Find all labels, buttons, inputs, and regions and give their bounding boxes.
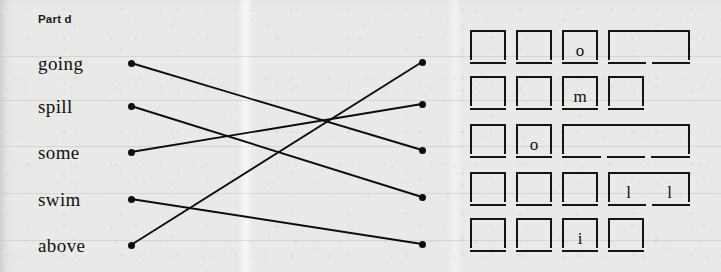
cell-baseline-1: [516, 250, 552, 252]
cell-bracket: [562, 124, 690, 154]
connector-going-to-slot3[interactable]: [131, 63, 422, 150]
cell-baseline-1: [516, 108, 552, 110]
answer-cell-r4c4[interactable]: ll: [608, 172, 690, 206]
right-dot-5[interactable]: [419, 241, 426, 248]
cell-baseline-1: [470, 250, 506, 252]
answer-cell-r5c1[interactable]: [470, 218, 506, 252]
answer-cell-r4c1[interactable]: [470, 172, 506, 206]
right-dot-1[interactable]: [419, 59, 426, 66]
cell-bracket: [516, 218, 552, 248]
answer-box-grid: omolli: [470, 30, 700, 266]
connector-spill-to-slot4[interactable]: [131, 106, 422, 197]
cell-letter: o: [562, 42, 598, 59]
answer-cell-r3c2[interactable]: o: [516, 124, 552, 158]
answer-cell-r2c1[interactable]: [470, 76, 506, 110]
cell-baseline-1: [470, 108, 506, 110]
answer-cell-r1c1[interactable]: [470, 30, 506, 64]
left-dot-4[interactable]: [128, 196, 135, 203]
cell-bracket: [470, 124, 506, 154]
answer-cell-r1c2[interactable]: [516, 30, 552, 64]
answer-row-5: i: [470, 218, 700, 258]
cell-baseline-1: [608, 250, 644, 252]
cell-baseline-1: [562, 156, 601, 158]
cell-baseline-1: [516, 156, 552, 158]
answer-cell-r5c3[interactable]: i: [562, 218, 598, 252]
left-dot-5[interactable]: [128, 242, 135, 249]
cell-baseline-1: [516, 204, 552, 206]
right-dot-3[interactable]: [419, 147, 426, 154]
cell-baseline-1: [608, 108, 644, 110]
cell-baseline-2: [652, 62, 690, 64]
left-dot-2[interactable]: [128, 103, 135, 110]
right-dot-2[interactable]: [419, 101, 426, 108]
cell-bracket: [608, 76, 644, 106]
cell-letter: i: [562, 230, 598, 247]
connector-swim-to-slot5[interactable]: [131, 199, 422, 244]
right-dot-4[interactable]: [419, 194, 426, 201]
answer-row-3: o: [470, 124, 700, 164]
cell-bracket: [516, 30, 552, 60]
left-dot-1[interactable]: [128, 60, 135, 67]
connector-some-to-slot2[interactable]: [131, 104, 422, 152]
answer-cell-r5c4[interactable]: [608, 218, 644, 252]
answer-cell-r4c2[interactable]: [516, 172, 552, 206]
answer-cell-r3c1[interactable]: [470, 124, 506, 158]
cell-bracket: [470, 218, 506, 248]
cell-baseline-2: [607, 156, 646, 158]
cell-baseline-1: [516, 62, 552, 64]
cell-bracket: [470, 76, 506, 106]
answer-cell-r5c2[interactable]: [516, 218, 552, 252]
cell-letter-glyph: l: [626, 184, 631, 201]
cell-bracket: [608, 30, 690, 60]
cell-bracket: [516, 172, 552, 202]
cell-letter: o: [516, 136, 552, 153]
cell-bracket: [470, 30, 506, 60]
answer-cell-r2c4[interactable]: [608, 76, 644, 110]
cell-baseline-1: [562, 250, 598, 252]
cell-letter: m: [562, 88, 598, 105]
cell-baseline-1: [470, 204, 506, 206]
answer-cell-r1c4[interactable]: [608, 30, 690, 64]
cell-bracket: [470, 172, 506, 202]
answer-row-1: o: [470, 30, 700, 70]
cell-bracket: [516, 76, 552, 106]
answer-row-2: m: [470, 76, 700, 116]
left-dot-3[interactable]: [128, 149, 135, 156]
cell-baseline-2: [652, 204, 690, 206]
answer-cell-r4c3[interactable]: [562, 172, 598, 206]
cell-baseline-3: [651, 156, 690, 158]
connector-above-to-slot1[interactable]: [131, 62, 422, 245]
cell-baseline-1: [470, 62, 506, 64]
cell-baseline-1: [470, 156, 506, 158]
worksheet-page: Part d goingspillsomeswimabove omolli: [0, 0, 721, 272]
cell-baseline-1: [562, 108, 598, 110]
answer-cell-r1c3[interactable]: o: [562, 30, 598, 64]
answer-cell-r2c2[interactable]: [516, 76, 552, 110]
cell-bracket: [608, 218, 644, 248]
cell-letter-glyph: l: [667, 184, 672, 201]
cell-baseline-1: [562, 62, 598, 64]
cell-letter: ll: [608, 184, 690, 201]
answer-cell-r2c3[interactable]: m: [562, 76, 598, 110]
answer-row-4: ll: [470, 172, 700, 212]
cell-baseline-1: [608, 62, 646, 64]
cell-baseline-1: [608, 204, 646, 206]
answer-cell-r3c3[interactable]: [562, 124, 690, 158]
cell-bracket: [562, 172, 598, 202]
cell-baseline-1: [562, 204, 598, 206]
